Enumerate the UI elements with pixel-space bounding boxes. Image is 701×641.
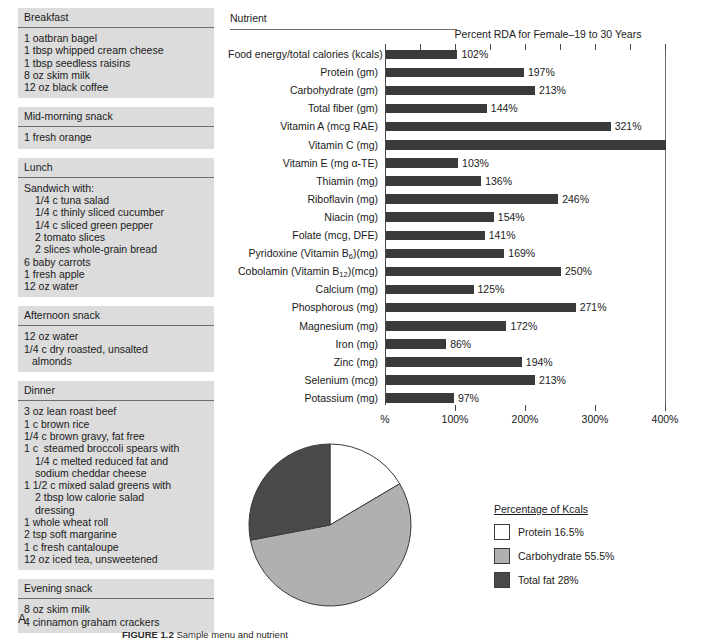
bar (386, 231, 485, 241)
meal-header: Evening snack (18, 579, 214, 599)
figure-caption: FIGURE 1.2 Sample menu and nutrient (122, 629, 288, 640)
meal-item-list: 3 oz lean roast beef1 c brown rice1/4 c … (18, 401, 214, 570)
legend-swatch (494, 548, 510, 564)
bar-row: Magnesium (mg)172% (228, 318, 693, 336)
bar-row: Pyridoxine (Vitamin B6)(mg)169% (228, 245, 693, 263)
bar-value-label: 102% (461, 48, 488, 60)
bar-label: Food energy/total calories (kcals) (228, 48, 378, 60)
bar-row: Riboflavin (mg)246% (228, 191, 693, 209)
bar-label: Riboflavin (mg) (228, 193, 378, 205)
bar-value-label: 103% (462, 157, 489, 169)
meal-block: Breakfast1 oatbran bagel1 tbsp whipped c… (18, 8, 214, 98)
bar-value-label: 246% (562, 193, 589, 205)
meal-item-list: 1 oatbran bagel1 tbsp whipped cream chee… (18, 28, 214, 98)
meal-header: Lunch (18, 158, 214, 178)
bar-value-label: 144% (491, 102, 518, 114)
bar-value-label: 169% (508, 247, 535, 259)
bar-value-label: 141% (489, 229, 516, 241)
bar (386, 104, 487, 114)
meal-item: 1 c fresh cantaloupe (24, 541, 208, 553)
meal-item: 2 tomato slices (24, 231, 208, 243)
bar-label: Zinc (mg) (228, 356, 378, 368)
bar-row: Phosphorous (mg)271% (228, 299, 693, 317)
meal-item: 1 c brown rice (24, 418, 208, 430)
bar-label: Total fiber (gm) (228, 102, 378, 114)
legend-label: Total fat 28% (518, 574, 579, 586)
meal-item-list: 8 oz skim milk4 cinnamon graham crackers (18, 599, 214, 633)
bar (386, 285, 474, 295)
bar-value-label: 321% (615, 120, 642, 132)
bar (386, 321, 506, 331)
bar (386, 176, 481, 186)
meal-block: Evening snack8 oz skim milk4 cinnamon gr… (18, 579, 214, 633)
meal-item: 1 fresh apple (24, 268, 208, 280)
meal-block: LunchSandwich with:1/4 c tuna salad1/4 c… (18, 158, 214, 298)
bar-value-label: 136% (485, 175, 512, 187)
x-tick-label: 200% (512, 413, 539, 425)
meal-item: 1 tbsp seedless raisins (24, 57, 208, 69)
meal-item: sodium cheddar cheese (24, 467, 208, 479)
meal-header: Dinner (18, 381, 214, 401)
meal-item: 1/4 c sliced green pepper (24, 219, 208, 231)
bar (386, 86, 535, 96)
bar-row: Zinc (mg)194% (228, 354, 693, 372)
bar (386, 140, 666, 150)
meal-item: 12 oz iced tea, unsweetened (24, 553, 208, 565)
kcal-pie-chart: Percentage of Kcals Protein 16.5%Carbohy… (248, 443, 693, 641)
meal-item: 1/4 c melted reduced fat and (24, 455, 208, 467)
meal-item: 1/4 c thinly sliced cucumber (24, 206, 208, 218)
bar (386, 339, 446, 349)
bar-label: Vitamin A (mcg RAE) (228, 120, 378, 132)
meal-item: Sandwich with: (24, 182, 208, 194)
meal-item: 1 oatbran bagel (24, 32, 208, 44)
bar-value-label: 86% (450, 338, 471, 350)
meal-item: 1/4 c brown gravy, fat free (24, 430, 208, 442)
meal-item: dressing (24, 504, 208, 516)
bar-value-label: 271% (580, 301, 607, 313)
bar-row: Cobolamin (Vitamin B12)(mcg)250% (228, 263, 693, 281)
bar-value-label: 194% (526, 356, 553, 368)
bar-row: Carbohydrate (gm)213% (228, 82, 693, 100)
meal-item: 2 tsp soft margarine (24, 528, 208, 540)
meal-item: 1 1/2 c mixed salad greens with (24, 479, 208, 491)
bar-row: Potassium (mg)97% (228, 390, 693, 408)
x-tick-label: % (380, 413, 389, 425)
meal-block: Mid-morning snack1 fresh orange (18, 107, 214, 148)
meal-header: Breakfast (18, 8, 214, 28)
bar (386, 194, 558, 204)
bar-value-label: 213% (539, 84, 566, 96)
meal-block: Dinner3 oz lean roast beef1 c brown rice… (18, 381, 214, 570)
meal-item: 6 baby carrots (24, 256, 208, 268)
bar-row: Thiamin (mg)136% (228, 173, 693, 191)
bar-label: Phosphorous (mg) (228, 301, 378, 313)
meal-item: 3 oz lean roast beef (24, 405, 208, 417)
bar-row: Vitamin C (mg) (228, 137, 693, 155)
x-tick-label: 100% (442, 413, 469, 425)
bar-label: Calcium (mg) (228, 283, 378, 295)
bar-value-label: 197% (528, 66, 555, 78)
nutrient-column-header: Nutrient (230, 12, 267, 24)
bar (386, 158, 458, 168)
legend-title: Percentage of Kcals (494, 503, 684, 515)
bar-label: Thiamin (mg) (228, 175, 378, 187)
meal-item: 8 oz skim milk (24, 603, 208, 615)
bar (386, 68, 524, 78)
bar-value-label: 97% (458, 392, 479, 404)
meal-item: 1 whole wheat roll (24, 516, 208, 528)
figure-caption-text: Sample menu and nutrient (176, 629, 287, 640)
bar-value-label: 250% (565, 265, 592, 277)
meal-item: almonds (24, 355, 208, 367)
bar (386, 375, 535, 385)
meal-item-list: 1 fresh orange (18, 127, 214, 148)
legend-label: Carbohydrate 55.5% (518, 550, 614, 562)
bar-row: Iron (mg)86% (228, 336, 693, 354)
bar-value-label: 213% (539, 374, 566, 386)
meal-item: 1 fresh orange (24, 131, 208, 143)
legend-swatch (494, 524, 510, 540)
meal-item: 8 oz skim milk (24, 69, 208, 81)
bar-label: Selenium (mcg) (228, 374, 378, 386)
meal-item: 1/4 c dry roasted, unsalted (24, 343, 208, 355)
meal-item: 1 c steamed broccoli spears with (24, 442, 208, 454)
pie-legend: Percentage of Kcals Protein 16.5%Carbohy… (494, 503, 684, 596)
bar (386, 303, 576, 313)
